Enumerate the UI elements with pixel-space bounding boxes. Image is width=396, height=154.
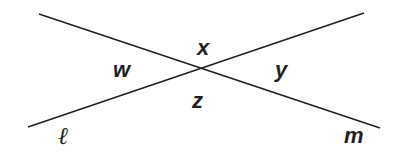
diagram: x w y z ℓ m [0,0,396,154]
angle-label-z: z [191,88,203,113]
angle-label-x: x [196,35,210,60]
angle-label-y: y [274,57,289,82]
diagram-canvas: x w y z ℓ m [0,0,396,154]
line-label-m: m [344,123,364,148]
line-m [39,14,380,128]
line-label-l: ℓ [58,123,68,149]
angle-label-w: w [113,57,132,82]
